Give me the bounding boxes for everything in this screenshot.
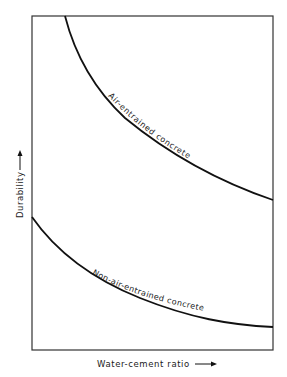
durability-diagram: Air-entrained concrete Non-air-entrained… bbox=[0, 0, 287, 377]
non-air-entrained-curve bbox=[32, 217, 273, 327]
y-axis-label: Durability bbox=[15, 172, 25, 218]
air-entrained-label: Air-entrained concrete bbox=[107, 91, 193, 161]
x-axis-label: Water-cement ratio bbox=[97, 359, 190, 369]
air-entrained-curve bbox=[65, 16, 273, 200]
x-axis-arrow-icon bbox=[211, 362, 217, 367]
y-axis-arrow-icon bbox=[18, 150, 23, 156]
y-axis-label-group: Durability bbox=[15, 150, 25, 218]
x-axis-label-group: Water-cement ratio bbox=[97, 359, 217, 369]
non-air-entrained-label: Non-air-entrained concrete bbox=[91, 268, 205, 313]
